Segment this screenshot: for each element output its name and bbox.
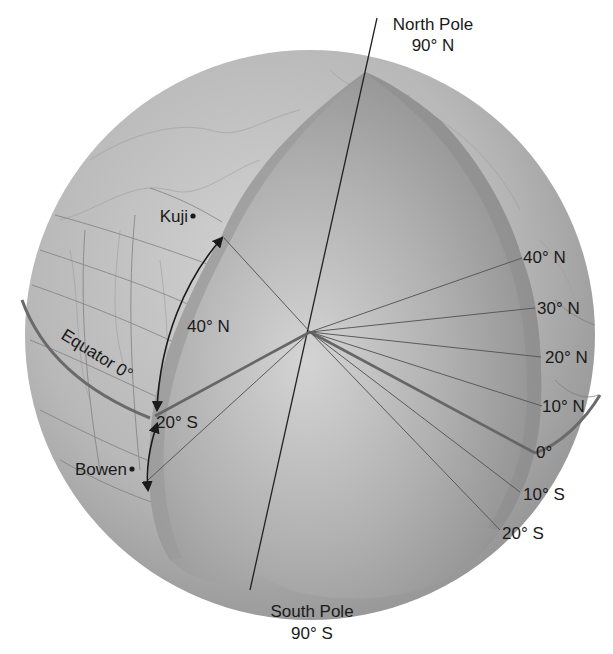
north-pole-value: 90° N (412, 36, 455, 55)
north-pole-label: North Pole (393, 15, 473, 34)
arc-label-20s: 20° S (156, 413, 198, 432)
lat-label-20n: 20° N (545, 348, 588, 367)
city-kuji-label: Kuji (160, 207, 188, 226)
lat-label-30n: 30° N (537, 299, 580, 318)
kuji-dot (190, 213, 195, 218)
globe-latitude-diagram: North Pole 90° N South Pole 90° S Kuji B… (0, 0, 613, 654)
arc-label-40n: 40° N (187, 317, 230, 336)
lat-label-40n: 40° N (523, 248, 566, 267)
south-pole-label: South Pole (270, 602, 353, 621)
bowen-dot (129, 466, 134, 471)
lat-label-10n: 10° N (542, 397, 585, 416)
lat-label-10s: 10° S (523, 485, 565, 504)
lat-label-20s: 20° S (502, 524, 544, 543)
city-bowen-label: Bowen (75, 460, 127, 479)
south-pole-value: 90° S (291, 624, 333, 643)
lat-label-0: 0° (536, 443, 552, 462)
